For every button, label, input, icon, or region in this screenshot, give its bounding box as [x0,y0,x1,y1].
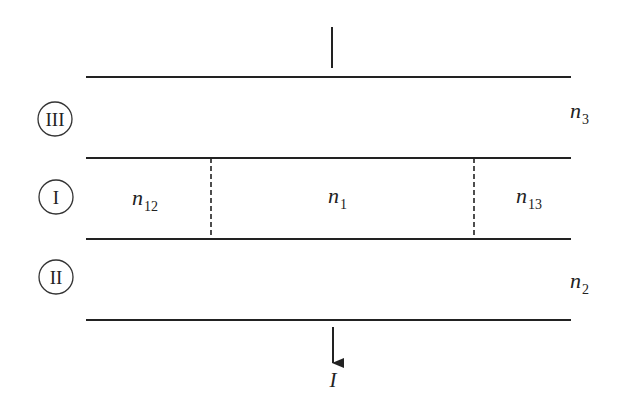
index-label-n12: n12 [132,185,158,214]
output-label: I [329,368,338,392]
region-marker-ii: II [39,260,73,294]
region-label-iii: III [46,109,65,130]
waveguide-diagram: III I II n3 n12 n1 n13 n2 I [0,0,620,404]
region-marker-iii: III [38,102,72,136]
region-label-i: I [53,187,59,208]
index-label-n3: n3 [570,98,589,127]
region-label-ii: II [50,267,63,288]
index-label-n13: n13 [516,183,542,212]
region-marker-i: I [39,180,73,214]
index-label-n1: n1 [328,183,347,212]
index-label-n2: n2 [570,268,589,297]
